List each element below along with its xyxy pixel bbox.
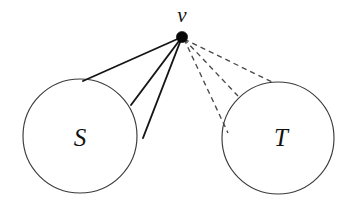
vertex-label-v: v [177, 3, 187, 27]
graph-diagram-svg: v S T [0, 0, 361, 212]
vertex-dot-v [176, 31, 187, 42]
edge-solid-2 [131, 37, 182, 105]
set-label-t: T [274, 124, 290, 151]
diagram-canvas: v S T [0, 0, 361, 212]
edge-dashed-1 [184, 39, 272, 82]
set-label-s: S [74, 124, 87, 151]
edge-dashed-3 [184, 39, 228, 133]
edge-dashed-2 [184, 39, 238, 96]
